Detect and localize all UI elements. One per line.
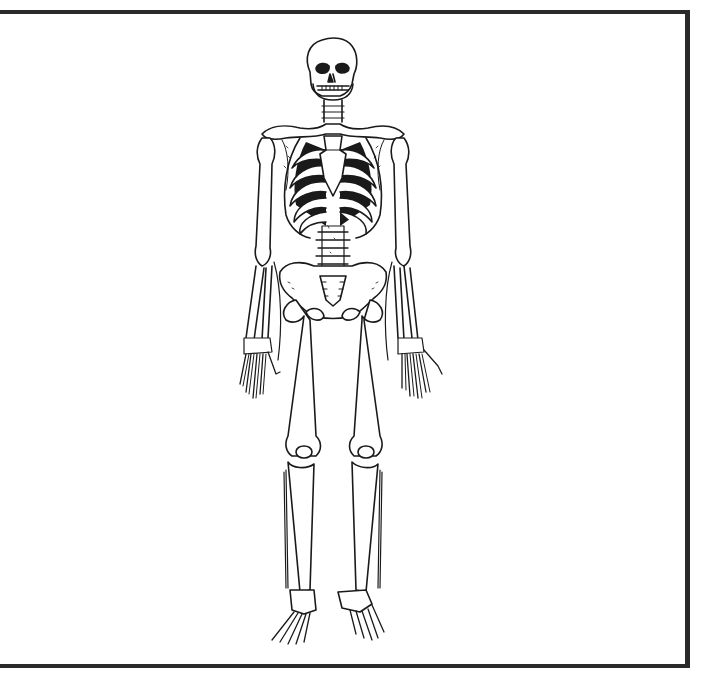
skeleton-illustration [0, 0, 714, 687]
arm-left [240, 138, 281, 398]
leg-right [338, 300, 384, 640]
arm-right [385, 138, 442, 398]
cervical-spine [322, 100, 344, 122]
lumbar-spine [316, 226, 350, 270]
skull [307, 38, 356, 100]
rib-cage [285, 136, 382, 238]
